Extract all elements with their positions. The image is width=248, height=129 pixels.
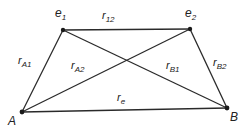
label-rA1-sub: A1	[22, 60, 32, 69]
label-B: B	[230, 111, 238, 123]
label-e2: e2	[185, 7, 196, 22]
label-rB2: rB2	[213, 57, 226, 71]
node-e1	[61, 28, 65, 32]
edge-re	[22, 108, 227, 112]
edge-rA1	[22, 30, 63, 112]
label-e1-main: e	[55, 6, 62, 20]
label-rA1: rA1	[18, 55, 31, 69]
edge-r12	[63, 29, 190, 30]
label-e2-sub: 2	[192, 13, 196, 22]
label-e2-main: e	[185, 6, 192, 20]
label-re: re	[117, 92, 125, 106]
label-rB1-sub: B1	[170, 65, 180, 74]
edge-rA2	[22, 29, 190, 112]
label-A: A	[8, 115, 16, 127]
label-re-sub: e	[121, 97, 125, 106]
label-rA2-sub: A2	[75, 65, 85, 74]
label-rA2: rA2	[71, 60, 84, 74]
edge-rB1	[63, 30, 227, 108]
node-B	[225, 106, 230, 111]
node-e2	[188, 27, 192, 31]
label-e1: e1	[55, 7, 66, 22]
label-r12-sub: 12	[106, 15, 115, 24]
node-A	[20, 110, 25, 115]
label-B-main: B	[230, 110, 238, 124]
label-r12: r12	[102, 10, 115, 24]
label-A-main: A	[8, 114, 16, 128]
label-e1-sub: 1	[62, 13, 66, 22]
label-rB1: rB1	[166, 60, 179, 74]
diagram-canvas	[0, 0, 248, 129]
label-rB2-sub: B2	[217, 62, 227, 71]
